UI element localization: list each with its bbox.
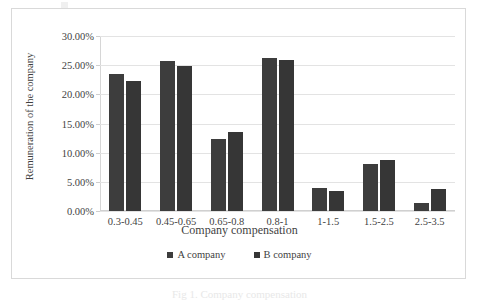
figure-caption: Fig 1. Company compensation: [0, 288, 479, 300]
gridline: [100, 211, 455, 212]
x-tick-label: 0.65-0.8: [209, 216, 244, 227]
bar[interactable]: [329, 191, 344, 211]
x-tick-label: 0.8-1: [267, 216, 289, 227]
x-tick-label: 1-1.5: [317, 216, 339, 227]
y-tick-label: 15.00%: [34, 118, 94, 129]
bar[interactable]: [431, 189, 446, 211]
y-tick-label: 0.00%: [34, 206, 94, 217]
x-tick-label: 1.5-2.5: [364, 216, 394, 227]
bar-group: 1.5-2.5: [354, 36, 405, 211]
bar[interactable]: [279, 60, 294, 211]
bar[interactable]: [160, 61, 175, 211]
bar-group: 0.45-0.65: [151, 36, 202, 211]
chart-frame: Remuneration of the company Company comp…: [11, 8, 466, 279]
bar[interactable]: [228, 132, 243, 211]
chart-legend: A companyB company: [12, 249, 467, 260]
legend-swatch-icon: [167, 252, 173, 258]
y-tick-label: 30.00%: [34, 31, 94, 42]
bar-group: 0.3-0.45: [100, 36, 151, 211]
x-tick-label: 2.5-3.5: [415, 216, 445, 227]
legend-item[interactable]: A company: [167, 249, 225, 260]
bar[interactable]: [363, 164, 378, 211]
y-tick-label: 20.00%: [34, 89, 94, 100]
plot-area: 0.00%5.00%10.00%15.00%20.00%25.00%30.00%…: [100, 36, 455, 211]
x-tick-label: 0.3-0.45: [108, 216, 143, 227]
bar[interactable]: [109, 74, 124, 211]
bar[interactable]: [211, 139, 226, 211]
x-tick-label: 0.45-0.65: [156, 216, 196, 227]
y-axis-title: Remuneration of the company: [24, 37, 35, 197]
bar[interactable]: [380, 160, 395, 211]
bar-group: 2.5-3.5: [404, 36, 455, 211]
bar[interactable]: [126, 81, 141, 211]
bar-groups: 0.3-0.450.45-0.650.65-0.80.8-11-1.51.5-2…: [100, 36, 455, 211]
legend-label: B company: [264, 249, 312, 260]
legend-label: A company: [177, 249, 225, 260]
legend-swatch-icon: [254, 252, 260, 258]
bar-group: 1-1.5: [303, 36, 354, 211]
bar[interactable]: [414, 203, 429, 211]
y-tick-mark: [96, 211, 100, 212]
figure-container: Remuneration of the company Company comp…: [0, 0, 479, 303]
bar-group: 0.8-1: [252, 36, 303, 211]
legend-item[interactable]: B company: [254, 249, 312, 260]
y-tick-label: 25.00%: [34, 60, 94, 71]
y-tick-label: 5.00%: [34, 176, 94, 187]
bar[interactable]: [177, 66, 192, 211]
bar[interactable]: [312, 188, 327, 211]
y-tick-label: 10.00%: [34, 147, 94, 158]
bar[interactable]: [262, 58, 277, 211]
bar-group: 0.65-0.8: [201, 36, 252, 211]
